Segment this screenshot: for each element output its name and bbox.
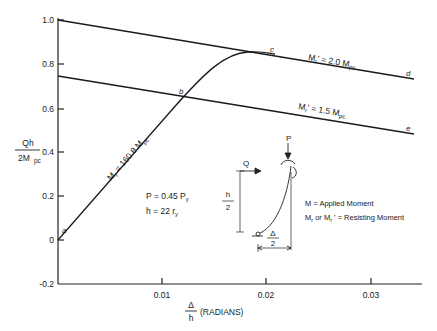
- svg-text:2: 2: [271, 239, 276, 248]
- svg-text:pc: pc: [34, 157, 42, 165]
- x-tick-0.01: 0.01: [154, 290, 171, 300]
- svg-text:Mr' = 2.0 Mpc: Mr' = 2.0 Mpc: [308, 52, 357, 71]
- y-tick-labels: 1.0 0.8 0.6 0.4 0.2 0 -0.2: [39, 15, 54, 289]
- y-tick-0: 0: [49, 235, 54, 245]
- svg-text:2: 2: [226, 203, 231, 212]
- parameters: P = 0.45 Py h = 22 ry: [146, 191, 189, 217]
- legend: M = Applied Moment Mr or Mr ' = Resistin…: [305, 199, 405, 223]
- y-tick-neg0.2: -0.2: [39, 279, 54, 289]
- y-tick-0.8: 0.8: [42, 59, 54, 69]
- x-tick-0.03: 0.03: [363, 290, 380, 300]
- svg-text:Mr = 160 θ Mpc: Mr = 160 θ Mpc: [105, 134, 150, 183]
- svg-text:Mr or Mr ' = Resisting Moment: Mr or Mr ' = Resisting Moment: [305, 213, 405, 223]
- line-label-e: Mr' = 1.5 Mpc: [298, 101, 347, 120]
- point-e: e: [406, 124, 411, 133]
- y-tick-0.6: 0.6: [42, 104, 54, 114]
- point-d: d: [406, 69, 411, 78]
- chart-canvas: 1.0 0.8 0.6 0.4 0.2 0 -0.2 0.01 0.02 0.0…: [0, 0, 437, 331]
- y-tick-1.0: 1.0: [42, 15, 54, 25]
- param-h: h = 22 ry: [146, 206, 178, 217]
- point-a: a: [62, 226, 67, 235]
- line-mr-2.0: [58, 20, 414, 79]
- point-b: b: [179, 87, 184, 96]
- svg-text:Q: Q: [243, 159, 249, 168]
- svg-text:Δ: Δ: [188, 300, 194, 310]
- svg-text:h: h: [189, 313, 194, 323]
- svg-text:P: P: [286, 134, 291, 143]
- svg-text:Qh: Qh: [22, 138, 34, 148]
- y-tick-0.2: 0.2: [42, 191, 54, 201]
- svg-text:M = Applied Moment: M = Applied Moment: [305, 199, 374, 208]
- line-mr-1.5: [58, 76, 414, 134]
- param-p: P = 0.45 Py: [146, 191, 189, 202]
- svg-text:h: h: [226, 190, 230, 199]
- x-axis-label: Δ h (RADIANS): [185, 300, 244, 323]
- y-axis-label: Qh 2M pc: [15, 138, 42, 165]
- axes: [58, 18, 422, 284]
- slope-label: Mr = 160 θ Mpc: [105, 134, 150, 183]
- column-diagram: [222, 143, 296, 252]
- svg-text:Mr' = 1.5 Mpc: Mr' = 1.5 Mpc: [298, 101, 347, 120]
- point-c: c: [270, 45, 274, 54]
- svg-text:Δ: Δ: [270, 229, 276, 238]
- x-tick-labels: 0.01 0.02 0.03: [154, 290, 380, 300]
- y-tick-0.4: 0.4: [42, 147, 54, 157]
- line-label-d: Mr' = 2.0 Mpc: [308, 52, 357, 71]
- x-tick-0.02: 0.02: [258, 290, 275, 300]
- svg-text:(RADIANS): (RADIANS): [200, 307, 244, 317]
- diagram-labels: P Q h 2 Δ 2: [226, 134, 292, 248]
- svg-text:2M: 2M: [18, 153, 30, 163]
